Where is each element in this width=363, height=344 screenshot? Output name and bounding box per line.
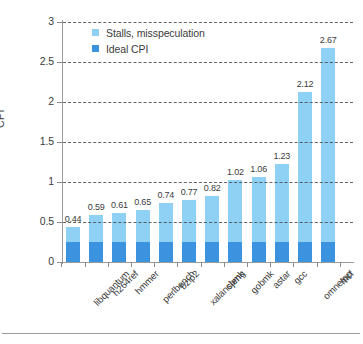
x-category-label-sjeng: sjeng bbox=[224, 268, 247, 291]
y-axis-title: CPI bbox=[0, 109, 6, 128]
gridline bbox=[63, 22, 353, 23]
x-tick-mark bbox=[317, 262, 318, 267]
y-tick-mark bbox=[57, 102, 63, 103]
bar-segment-ideal-cpi bbox=[89, 242, 103, 262]
legend-label: Stalls, misspeculation bbox=[106, 27, 205, 39]
bar-segment-ideal-cpi bbox=[112, 242, 126, 262]
x-category-label-bzip2: bzip2 bbox=[177, 268, 200, 291]
bar-sjeng[interactable] bbox=[205, 196, 219, 262]
legend-label: Ideal CPI bbox=[106, 43, 148, 55]
legend-item[interactable]: Stalls, misspeculation bbox=[92, 25, 205, 40]
y-tick-label: 1.5 bbox=[14, 135, 54, 147]
bar-segment-ideal-cpi bbox=[252, 242, 266, 262]
bar-value-label: 0.65 bbox=[134, 197, 151, 207]
bar-value-label: 1.23 bbox=[273, 151, 290, 161]
bar-astar[interactable] bbox=[252, 177, 266, 262]
bar-libquantum[interactable] bbox=[66, 227, 80, 262]
bar-value-label: 1.06 bbox=[250, 164, 267, 174]
y-tick-label: 2 bbox=[14, 95, 54, 107]
bar-value-label: 0.77 bbox=[181, 187, 198, 197]
x-tick-mark bbox=[108, 262, 109, 267]
x-tick-mark bbox=[154, 262, 155, 267]
bar-value-label: 0.61 bbox=[111, 200, 128, 210]
y-tick-label: 3 bbox=[14, 15, 54, 27]
bar-segment-stalls bbox=[321, 48, 335, 262]
y-tick-label: 1 bbox=[14, 175, 54, 187]
x-tick-mark bbox=[61, 262, 62, 267]
y-tick-label: 0.5 bbox=[14, 215, 54, 227]
y-tick-label: 0 bbox=[14, 255, 54, 267]
y-tick-mark bbox=[57, 22, 63, 23]
bar-segment-ideal-cpi bbox=[228, 242, 242, 262]
bar-segment-ideal-cpi bbox=[298, 242, 312, 262]
legend-item[interactable]: Ideal CPI bbox=[92, 41, 205, 56]
x-tick-mark bbox=[85, 262, 86, 267]
bar-segment-ideal-cpi bbox=[275, 242, 289, 262]
x-tick-mark bbox=[177, 262, 178, 267]
x-category-label-gcc: gcc bbox=[291, 268, 309, 286]
bar-value-label: 2.12 bbox=[297, 79, 314, 89]
gridline bbox=[63, 222, 353, 223]
gridline bbox=[63, 142, 353, 143]
bar-gcc[interactable] bbox=[275, 164, 289, 262]
bar-segment-stalls bbox=[298, 92, 312, 262]
bar-segment-ideal-cpi bbox=[182, 242, 196, 262]
x-tick-mark bbox=[247, 262, 248, 267]
x-tick-mark bbox=[293, 262, 294, 267]
gridline bbox=[63, 62, 353, 63]
x-axis-line bbox=[62, 262, 354, 263]
bar-value-label: 0.59 bbox=[88, 202, 105, 212]
y-tick-mark bbox=[57, 182, 63, 183]
bar-value-label: 0.82 bbox=[204, 183, 221, 193]
x-tick-mark bbox=[131, 262, 132, 267]
x-tick-mark bbox=[270, 262, 271, 267]
x-tick-mark bbox=[201, 262, 202, 267]
x-tick-mark bbox=[340, 262, 341, 267]
y-tick-mark bbox=[57, 62, 63, 63]
y-tick-mark bbox=[57, 142, 63, 143]
bar-segment-ideal-cpi bbox=[66, 242, 80, 262]
x-category-label-astar: astar bbox=[270, 268, 292, 290]
x-tick-mark bbox=[224, 262, 225, 267]
footer-divider bbox=[2, 333, 360, 334]
legend-swatch-icon bbox=[92, 45, 99, 52]
bar-hmmer[interactable] bbox=[112, 213, 126, 262]
bar-segment-ideal-cpi bbox=[205, 242, 219, 262]
y-tick-label: 2.5 bbox=[14, 55, 54, 67]
bar-omnetpp[interactable] bbox=[298, 92, 312, 262]
cpi-stacked-bar-chart: CPI 00.511.522.53 libquantumh264refhmmer… bbox=[0, 0, 363, 344]
legend-swatch-icon bbox=[92, 29, 99, 36]
bar-value-label: 1.02 bbox=[227, 167, 244, 177]
bar-segment-ideal-cpi bbox=[321, 242, 335, 262]
bar-value-label: 2.67 bbox=[320, 35, 337, 45]
legend: Stalls, misspeculationIdeal CPI bbox=[92, 25, 205, 57]
bar-value-label: 0.74 bbox=[157, 190, 174, 200]
y-tick-mark bbox=[57, 222, 63, 223]
bar-value-label: 0.44 bbox=[65, 214, 82, 224]
bar-segment-ideal-cpi bbox=[136, 242, 150, 262]
bar-perlbench[interactable] bbox=[136, 210, 150, 262]
bar-bzip2[interactable] bbox=[159, 203, 173, 262]
bar-segment-ideal-cpi bbox=[159, 242, 173, 262]
bar-xalancbmk[interactable] bbox=[182, 200, 196, 262]
bar-mcf[interactable] bbox=[321, 48, 335, 262]
gridline bbox=[63, 102, 353, 103]
